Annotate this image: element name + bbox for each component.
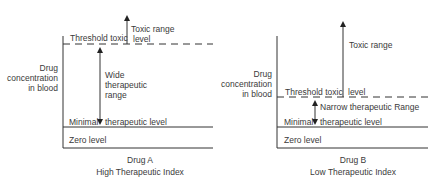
minimal-label-a: Minimal [69,117,98,127]
minimal-label-b: Minimal [284,117,313,127]
zero-label-a: Zero level [69,135,106,145]
axis-label-line: concentration [212,79,272,89]
threshold-label-b: Threshold toxic [285,87,343,97]
threshold-label-a: Threshold toxic [70,33,128,43]
range-label-line: Wide [105,70,147,80]
axis-label-line: in blood [0,83,58,93]
threshold-level-label-b: level [348,87,365,97]
drug-name-b: Drug B [313,155,393,165]
axis-label-b: Drug concentration in blood [212,69,272,99]
index-label-b: Low Therapeutic Index [293,167,413,177]
zero-label-b: Zero level [284,135,321,145]
therapeutic-level-label-b: therapeutic level [320,117,382,127]
toxic-range-label-b: Toxic range [349,40,392,50]
range-label-line: therapeutic [105,80,147,90]
axis-label-line: concentration [0,73,58,83]
wide-range-label-a: Wide therapeutic range [105,70,147,100]
index-label-a: High Therapeutic Index [80,167,200,177]
axis-label-line: Drug [212,69,272,79]
toxic-range-label-a: Toxic range [131,24,174,34]
axis-label-line: Drug [0,63,58,73]
narrow-range-label-b: Narrow therapeutic Range [320,102,419,112]
axis-label-line: in blood [212,89,272,99]
drug-name-a: Drug A [100,155,180,165]
threshold-level-label-a: level [133,34,150,44]
axis-label-a: Drug concentration in blood [0,63,58,93]
therapeutic-level-label-a: therapeutic level [105,117,167,127]
range-label-line: range [105,90,147,100]
